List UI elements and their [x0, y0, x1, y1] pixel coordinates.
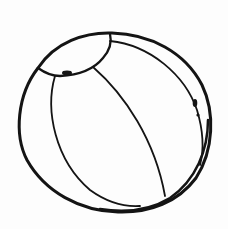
outer-outline-shadow [100, 120, 208, 211]
beach-ball-icon [0, 0, 228, 229]
side-valve-dot-icon [196, 113, 199, 116]
beach-ball-illustration: beach ball line drawing [0, 0, 228, 229]
cap-valve-icon [62, 71, 72, 76]
left-seam [51, 76, 140, 206]
side-valve-icon [193, 99, 198, 107]
right-seam [110, 41, 202, 165]
middle-seam [93, 67, 165, 196]
outer-outline [19, 33, 211, 212]
